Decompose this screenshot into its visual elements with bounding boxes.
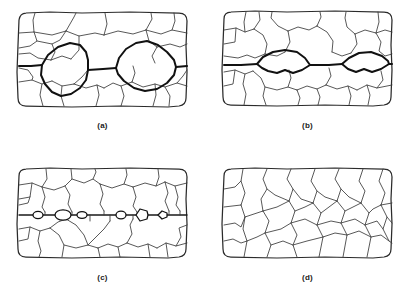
- panel-b-grain-boundaries-upper: [224, 12, 392, 58]
- panel-c: (c): [0, 149, 205, 298]
- panel-b: (b): [205, 0, 410, 149]
- panel-c-void-6: [158, 211, 167, 219]
- panel-b-grain-boundaries-lower: [224, 68, 392, 105]
- panel-c-grain-boundaries-lower: [19, 219, 187, 257]
- panel-b-label: (b): [205, 121, 410, 131]
- panel-d-diagram: [205, 149, 410, 277]
- panel-c-void-4: [116, 211, 126, 219]
- figure-container: (a): [0, 0, 410, 298]
- panel-a-diagram: [0, 0, 205, 128]
- panel-c-void-3: [77, 212, 87, 219]
- panel-c-void-2: [55, 210, 71, 220]
- panel-c-label: (c): [0, 273, 205, 283]
- panel-b-diagram: [205, 0, 410, 128]
- panel-d-label: (d): [205, 273, 410, 283]
- panel-a-boundary-left-segment: [19, 65, 42, 66]
- panel-c-grain-boundaries-upper: [19, 169, 187, 212]
- panel-a-label: (a): [0, 121, 205, 131]
- panel-a-grain-boundaries-upper: [19, 13, 187, 63]
- panel-d: (d): [205, 149, 410, 298]
- panel-a-boundary-right-segment: [176, 66, 187, 67]
- panel-c-void-1: [33, 211, 43, 218]
- panel-d-frame: [222, 168, 392, 258]
- panel-b-boundary-left-segment: [224, 64, 257, 65]
- panel-b-boundary-center-segment: [310, 64, 342, 65]
- panel-a: (a): [0, 0, 205, 149]
- panel-c-void-5: [136, 209, 148, 221]
- panel-a-cavity-right: [116, 41, 176, 91]
- panel-a-frame: [17, 12, 187, 107]
- panel-d-grain-boundaries: [224, 169, 392, 257]
- panel-c-diagram: [0, 149, 205, 277]
- panel-b-frame: [222, 11, 392, 106]
- panel-a-cavity-left: [41, 43, 88, 96]
- panel-a-boundary-center-segment: [88, 68, 116, 70]
- panel-b-lens-cavity-right: [342, 52, 389, 72]
